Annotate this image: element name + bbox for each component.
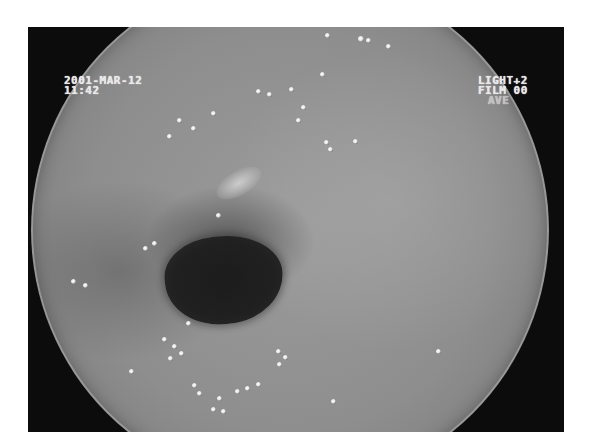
air-bubble (325, 33, 330, 38)
air-bubble (436, 349, 441, 354)
air-bubble (358, 36, 364, 42)
air-bubble (256, 382, 261, 387)
air-bubble (277, 362, 282, 367)
air-bubble (289, 87, 294, 92)
air-bubble (177, 118, 182, 123)
air-bubble (197, 391, 202, 396)
air-bubble (211, 111, 216, 116)
mucosal-lesion (211, 160, 266, 206)
air-bubble (71, 279, 76, 284)
air-bubble (162, 337, 167, 342)
air-bubble (276, 349, 281, 354)
air-bubble (320, 72, 325, 77)
air-bubble (324, 140, 329, 145)
air-bubble (267, 92, 272, 97)
air-bubble (328, 147, 333, 152)
time-text: 11:42 (64, 86, 142, 96)
air-bubble (152, 241, 157, 246)
air-bubble (217, 396, 222, 401)
datetime-overlay: 2001-MAR-1211:42 (64, 76, 142, 96)
air-bubble (168, 356, 173, 361)
air-bubble (186, 321, 191, 326)
air-bubble (301, 105, 306, 110)
air-bubble (366, 38, 371, 43)
air-bubble (179, 351, 184, 356)
mode-text: AVE (478, 96, 528, 106)
air-bubble (245, 386, 250, 391)
air-bubble (191, 126, 196, 131)
air-bubble (172, 344, 177, 349)
air-bubble (143, 246, 148, 251)
air-bubble (167, 134, 172, 139)
lumen-opening (161, 230, 288, 330)
air-bubble (353, 139, 358, 144)
air-bubble (331, 399, 336, 404)
air-bubble (129, 369, 134, 374)
air-bubble (296, 118, 301, 123)
air-bubble (83, 283, 88, 288)
air-bubble (216, 213, 221, 218)
settings-overlay: LIGHT+2FILM 00AVE (478, 76, 528, 106)
air-bubble (283, 355, 288, 360)
air-bubble (386, 44, 391, 49)
air-bubble (211, 407, 216, 412)
endoscopy-image-frame: 2001-MAR-1211:42 LIGHT+2FILM 00AVE (28, 27, 564, 432)
air-bubble (192, 383, 197, 388)
air-bubble (235, 389, 240, 394)
air-bubble (221, 409, 226, 414)
air-bubble (256, 89, 261, 94)
